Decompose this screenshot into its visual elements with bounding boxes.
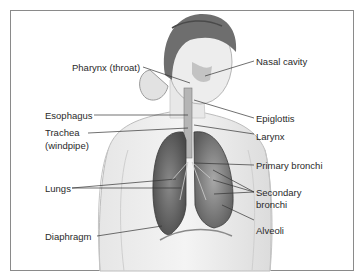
label-trachea: Trachea (45, 127, 80, 138)
label-trachea-sub: (windpipe) (45, 140, 89, 151)
label-diaphragm: Diaphragm (45, 231, 91, 242)
label-primary-bronchi: Primary bronchi (256, 160, 323, 171)
label-secondary-bronchi-sub: bronchi (256, 199, 287, 210)
label-pharynx: Pharynx (throat) (72, 62, 140, 73)
label-esophagus: Esophagus (45, 110, 93, 121)
label-larynx: Larynx (256, 131, 285, 142)
label-alveoli: Alveoli (256, 225, 284, 236)
label-nasal-cavity: Nasal cavity (256, 56, 307, 67)
hair-ponytail (140, 70, 168, 100)
label-epiglottis: Epiglottis (256, 113, 295, 124)
label-lungs: Lungs (45, 183, 71, 194)
label-secondary-bronchi: Secondary (256, 187, 301, 198)
